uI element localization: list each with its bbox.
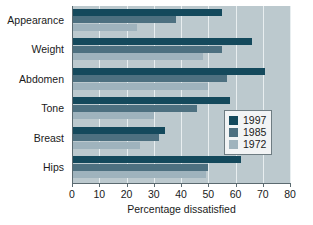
category-axis-labels: AppearanceWeightAbdomenToneBreastHips xyxy=(0,6,68,183)
x-tick-label: 20 xyxy=(121,188,133,200)
x-tick xyxy=(154,183,155,187)
x-axis-title: Percentage dissatisfied xyxy=(72,203,291,215)
bar-chart: AppearanceWeightAbdomenToneBreastHips 01… xyxy=(0,0,313,225)
x-tick-label: 70 xyxy=(257,188,269,200)
category-label-tone: Tone xyxy=(41,102,64,114)
x-tick xyxy=(290,183,291,187)
bar-breast-1985 xyxy=(72,134,159,141)
legend-label-1985: 1985 xyxy=(243,127,266,138)
category-label-breast: Breast xyxy=(34,132,64,144)
bar-hips-1985 xyxy=(72,164,208,171)
plot-area xyxy=(72,6,290,183)
bar-breast-1997 xyxy=(72,127,165,134)
category-label-hips: Hips xyxy=(43,161,64,173)
bar-weight-1997 xyxy=(72,38,252,45)
x-tick-label: 0 xyxy=(69,188,75,200)
x-tick-label: 10 xyxy=(93,188,105,200)
legend-swatch-1985 xyxy=(229,128,238,137)
bar-tone-1997 xyxy=(72,97,230,104)
x-tick xyxy=(72,183,73,187)
legend-label-1997: 1997 xyxy=(243,115,266,126)
bar-hips-1972 xyxy=(72,171,206,178)
x-tick xyxy=(236,183,237,187)
legend-item-1972: 1972 xyxy=(229,139,266,150)
legend-swatch-1972 xyxy=(229,140,238,149)
x-tick xyxy=(181,183,182,187)
bar-abdomen-1972 xyxy=(72,83,208,90)
legend: 199719851972 xyxy=(224,110,272,155)
x-tick xyxy=(263,183,264,187)
bar-appearance-1972 xyxy=(72,24,137,31)
bar-appearance-1997 xyxy=(72,9,222,16)
category-label-weight: Weight xyxy=(32,43,65,55)
x-tick xyxy=(99,183,100,187)
x-tick-label: 80 xyxy=(284,188,296,200)
category-label-abdomen: Abdomen xyxy=(19,73,64,85)
x-tick-label: 60 xyxy=(230,188,242,200)
bar-hips-1997 xyxy=(72,156,241,163)
bar-tone-1972 xyxy=(72,112,154,119)
bar-abdomen-1997 xyxy=(72,68,265,75)
legend-item-1997: 1997 xyxy=(229,115,266,126)
bar-appearance-1985 xyxy=(72,16,176,23)
bar-abdomen-1985 xyxy=(72,75,227,82)
bar-weight-1972 xyxy=(72,53,203,60)
category-label-appearance: Appearance xyxy=(7,14,64,26)
bar-breast-1972 xyxy=(72,142,140,149)
bar-tone-1985 xyxy=(72,105,197,112)
x-tick xyxy=(127,183,128,187)
x-tick-label: 30 xyxy=(148,188,160,200)
legend-swatch-1997 xyxy=(229,116,238,125)
legend-label-1972: 1972 xyxy=(243,139,266,150)
gridline xyxy=(263,6,264,183)
x-tick-label: 40 xyxy=(175,188,187,200)
bar-weight-1985 xyxy=(72,46,222,53)
x-tick-label: 50 xyxy=(202,188,214,200)
gridline xyxy=(290,6,291,183)
x-tick xyxy=(208,183,209,187)
y-axis-line xyxy=(72,6,73,184)
legend-item-1985: 1985 xyxy=(229,127,266,138)
